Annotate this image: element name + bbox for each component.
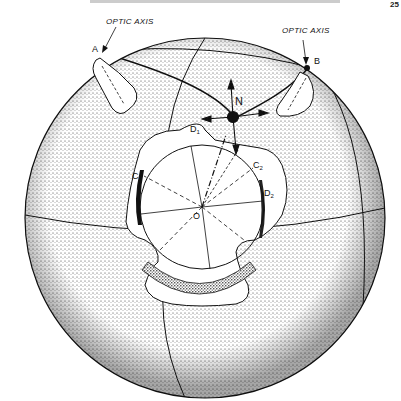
d1-subscript: 1 (197, 129, 200, 135)
c1-subscript: 1 (139, 176, 142, 182)
point-a-label: A (92, 44, 98, 54)
c1-label: C1 (132, 171, 142, 182)
c2-subscript: 2 (260, 165, 263, 171)
optic-axis-label-left: OPTIC AXIS (106, 17, 154, 26)
point-b-label: B (314, 56, 320, 66)
normal-n-label: N (235, 95, 243, 107)
point-b-dot (304, 65, 310, 71)
d2-label: D2 (264, 188, 274, 199)
d2-subscript: 2 (271, 193, 274, 199)
c2-label: C2 (253, 160, 263, 171)
optic-axis-label-right: OPTIC AXIS (282, 26, 330, 35)
d1-label: D1 (190, 124, 200, 135)
sphere-diagram (0, 0, 401, 401)
origin-o-label: O (193, 211, 200, 221)
